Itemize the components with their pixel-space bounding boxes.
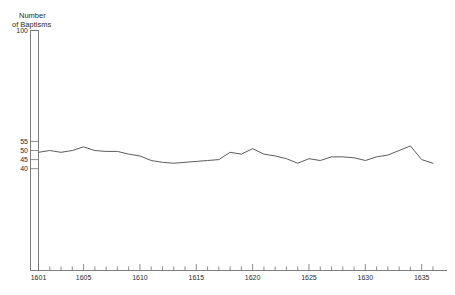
x-tick-label: 1635: [414, 274, 430, 281]
x-tick-label: 1610: [132, 274, 148, 281]
chart-container: Number of Baptisms 10055504540 160116051…: [0, 0, 455, 295]
y-tick-label: 100: [16, 27, 28, 34]
y-tick-label: 45: [20, 156, 28, 163]
y-tick-label: 55: [20, 138, 28, 145]
baptisms-line-chart: Number of Baptisms 10055504540 160116051…: [0, 0, 455, 295]
x-tick-label: 1615: [188, 274, 204, 281]
y-tick-label: 40: [20, 165, 28, 172]
x-tick-label: 1601: [31, 274, 47, 281]
x-tick-label: 1625: [301, 274, 317, 281]
x-tick-label: 1605: [76, 274, 92, 281]
data-series: [39, 146, 433, 163]
y-tick-label: 50: [20, 147, 28, 154]
series-line-baptisms: [39, 146, 433, 163]
y-axis-title-line1: Number: [19, 11, 46, 20]
x-tick-label: 1630: [358, 274, 374, 281]
x-tick-label: 1620: [245, 274, 261, 281]
y-axis: 10055504540: [16, 27, 447, 270]
x-axis: 16011605161016151620162516301635: [31, 264, 433, 281]
